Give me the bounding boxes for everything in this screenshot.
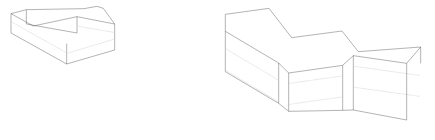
right-block-panel-3-front-face [353, 56, 406, 120]
isometric-blocks-figure [0, 0, 435, 140]
right-block-panel-2-front-face [289, 65, 343, 111]
